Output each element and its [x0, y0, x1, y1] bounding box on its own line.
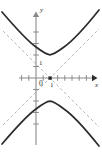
origin-label: 0 [39, 80, 43, 88]
y-axis-label: y [40, 7, 43, 14]
lower-branch-curve [2, 101, 99, 146]
hyperbola-figure: y x 0 1 1 [0, 0, 102, 154]
plot-canvas [0, 0, 102, 154]
upper-branch-curve [2, 10, 99, 55]
y-axis-tick-label-one: 1 [39, 60, 43, 67]
axes-group [19, 12, 98, 146]
y-axis-arrowhead [33, 12, 39, 18]
hyperbola-center-dot [48, 76, 51, 79]
x-axis-tick-label-one: 1 [50, 82, 54, 89]
x-axis-label: x [95, 82, 98, 89]
